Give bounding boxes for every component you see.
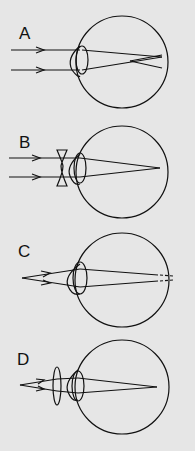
panel-b-concave-correction: B [0, 110, 195, 220]
eye-diagram-c [0, 220, 195, 330]
panel-d-convex-correction: D [0, 330, 195, 451]
eye-diagram-b [0, 110, 195, 220]
panel-c-hyperopia: C [0, 220, 195, 330]
panel-a-myopia: A [0, 0, 195, 110]
eye-diagram-a [0, 0, 195, 110]
eye-diagram-d [0, 330, 195, 451]
